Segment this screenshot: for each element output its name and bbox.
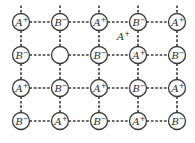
ion-base: A — [171, 83, 179, 94]
ion-charge: + — [101, 82, 107, 90]
anion-b-node: B− — [91, 47, 108, 64]
cation-a-node: A+ — [130, 113, 147, 130]
cation-a-node: A+ — [169, 80, 186, 97]
ion-charge: + — [23, 82, 29, 90]
anion-b-node: B− — [130, 80, 147, 97]
ion-charge: − — [179, 49, 185, 57]
ion-base: B — [171, 116, 179, 127]
ion-circle — [52, 47, 69, 64]
ion-base: A — [54, 116, 62, 127]
ionic-lattice-diagram: A+B−A+B−A+B−B−A+B−A+B−A+B−A+B−A+B−A+B− A… — [0, 0, 195, 143]
ion-base: A — [171, 17, 179, 28]
anion-b-node: B− — [13, 47, 30, 64]
ion-base: B — [54, 17, 62, 28]
ion-charge: − — [62, 16, 68, 24]
cation-a-node: A+ — [13, 80, 30, 97]
cation-a-node: A+ — [13, 14, 30, 31]
ion-base: A — [93, 83, 101, 94]
ion-charge: + — [140, 115, 146, 123]
ion-base: B — [93, 116, 101, 127]
anion-b-node: B− — [169, 47, 186, 64]
ion-charge: + — [140, 49, 146, 57]
ion-charge: − — [140, 16, 146, 24]
ion-charge: + — [23, 16, 29, 24]
cation-a-node: A+ — [91, 80, 108, 97]
cation-a-node: A+ — [91, 14, 108, 31]
ion-base: A — [15, 83, 23, 94]
ion-base: A — [132, 50, 140, 61]
ion-charge: + — [101, 16, 107, 24]
anion-b-node: B− — [52, 14, 69, 31]
cation-a-node: A+ — [52, 113, 69, 130]
cation-a-node: A+ — [169, 14, 186, 31]
ion-charge: − — [23, 49, 29, 57]
vacancy-site — [52, 47, 69, 64]
ion-charge: − — [101, 49, 107, 57]
ion-charge: − — [179, 115, 185, 123]
ion-charge: + — [179, 82, 185, 90]
ion-charge: − — [140, 82, 146, 90]
ion-base: B — [15, 50, 23, 61]
interstitial-label: A+ — [116, 30, 130, 42]
ion-base: A — [93, 17, 101, 28]
ion-base: A — [15, 17, 23, 28]
ion-charge: + — [62, 115, 68, 123]
anion-b-node: B− — [130, 14, 147, 31]
ion-charge: + — [179, 16, 185, 24]
anion-b-node: B− — [91, 113, 108, 130]
ion-base: A — [132, 116, 140, 127]
anion-b-node: B− — [13, 113, 30, 130]
interstitial-charge: + — [124, 30, 130, 38]
ion-base: B — [171, 50, 179, 61]
ion-base: B — [15, 116, 23, 127]
ion-base: B — [132, 17, 140, 28]
interstitial-base: A — [116, 31, 124, 42]
anion-b-node: B− — [52, 80, 69, 97]
cation-a-node: A+ — [130, 47, 147, 64]
ion-charge: − — [62, 82, 68, 90]
ion-base: B — [54, 83, 62, 94]
ion-base: B — [93, 50, 101, 61]
ion-base: B — [132, 83, 140, 94]
lattice-nodes: A+B−A+B−A+B−B−A+B−A+B−A+B−A+B−A+B−A+B− — [13, 14, 186, 130]
interstitial-ion: A+ — [116, 30, 130, 42]
anion-b-node: B− — [169, 113, 186, 130]
ion-charge: − — [101, 115, 107, 123]
ion-charge: − — [23, 115, 29, 123]
